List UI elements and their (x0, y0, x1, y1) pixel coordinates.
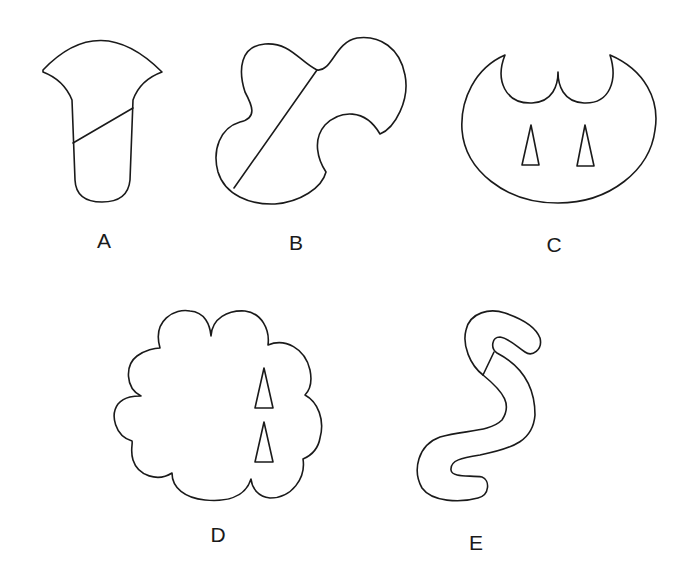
shape-d-outline (114, 311, 321, 501)
shape-a-divider (73, 108, 133, 143)
shape-d-label: D (210, 523, 225, 546)
shape-e-divider (483, 352, 494, 375)
shape-d-triangle-bottom (255, 422, 273, 462)
shapes-figure: A B C D E (0, 0, 698, 573)
shape-c-triangle-left (522, 125, 539, 165)
shape-c-label: C (546, 233, 561, 256)
shape-d-triangle-top (255, 368, 273, 408)
shape-c: C (462, 55, 656, 256)
shape-b-divider (234, 70, 317, 188)
shape-b: B (216, 38, 406, 254)
shape-a-label: A (97, 229, 111, 252)
shape-c-triangle-right (577, 125, 594, 166)
shape-c-outline (462, 55, 656, 203)
shape-e: E (417, 311, 540, 553)
shape-a: A (43, 40, 162, 251)
shape-e-label: E (469, 531, 483, 554)
shape-d: D (114, 311, 321, 546)
shape-b-outline (216, 38, 406, 204)
shape-a-outline (43, 40, 162, 202)
shape-e-outline (417, 311, 540, 501)
shape-b-label: B (289, 231, 303, 254)
